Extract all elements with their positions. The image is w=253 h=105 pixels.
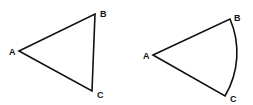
vertex-label-c: C (97, 90, 104, 100)
vertex-label-b: B (100, 9, 107, 19)
vertex-label-a: A (9, 47, 16, 57)
vertex-label-a: A (143, 51, 150, 61)
vertex-label-b: B (234, 13, 241, 23)
diagram-canvas: A B C A B C (0, 0, 253, 105)
triangle-outline (19, 14, 95, 91)
triangle-figure: A B C (9, 9, 107, 100)
sector-outline (153, 19, 237, 96)
sector-figure: A B C (143, 13, 241, 104)
vertex-label-c: C (230, 94, 237, 104)
